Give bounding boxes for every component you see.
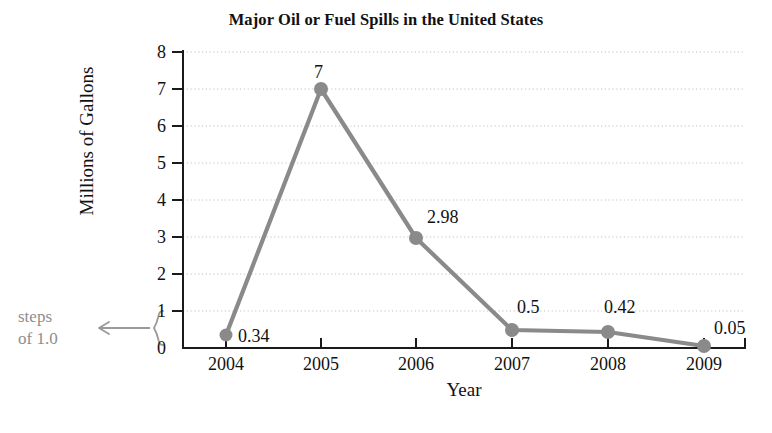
figure-container: Major Oil or Fuel Spills in the United S… — [0, 0, 772, 433]
data-point-markers — [220, 82, 712, 353]
y-tick-label-5: 5 — [138, 154, 166, 172]
x-tick-label-2006: 2006 — [381, 354, 451, 374]
x-tick-label-2004: 2004 — [191, 354, 261, 374]
data-label-2006: 2.98 — [427, 207, 459, 228]
data-point-2009 — [697, 339, 711, 353]
data-label-2009: 0.05 — [714, 318, 746, 339]
data-label-2007: 0.5 — [517, 297, 540, 318]
data-label-2004: 0.34 — [238, 326, 270, 347]
y-tick-label-8: 8 — [138, 43, 166, 61]
y-axis-title: Millions of Gallons — [76, 41, 98, 241]
x-tick-label-2007: 2007 — [477, 354, 547, 374]
y-tick-label-1: 1 — [138, 302, 166, 320]
x-tick-marks — [226, 338, 704, 348]
x-tick-label-2008: 2008 — [573, 354, 643, 374]
x-tick-label-2005: 2005 — [286, 354, 356, 374]
scan-ghost-artifact — [0, 400, 772, 433]
y-tick-label-0: 0 — [138, 339, 166, 357]
gridlines — [183, 52, 745, 311]
annotation-steps-line2: of 1.0 — [18, 328, 58, 350]
data-point-2006 — [409, 231, 423, 245]
left-arrow-icon — [99, 322, 150, 334]
y-tick-label-4: 4 — [138, 191, 166, 209]
data-point-2005 — [314, 82, 328, 96]
data-label-2005: 7 — [314, 62, 323, 83]
data-point-2007 — [505, 323, 519, 337]
y-tick-label-7: 7 — [138, 80, 166, 98]
x-axis-title: Year — [183, 379, 745, 401]
data-point-2004 — [220, 329, 233, 342]
data-point-2008 — [601, 325, 615, 339]
y-tick-label-3: 3 — [138, 228, 166, 246]
annotation-steps-line1: steps — [18, 306, 52, 328]
y-tick-label-2: 2 — [138, 265, 166, 283]
x-tick-label-2009: 2009 — [669, 354, 739, 374]
y-tick-marks — [172, 52, 183, 311]
data-label-2008: 0.42 — [604, 297, 636, 318]
y-tick-label-6: 6 — [138, 117, 166, 135]
